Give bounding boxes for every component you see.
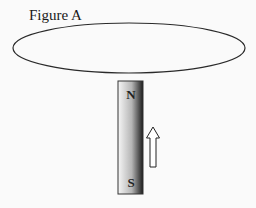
hollow-arrow-up-icon [147,127,160,167]
south-pole-label: S [118,176,144,189]
north-pole-label: N [118,88,144,101]
wire-loop [13,23,245,73]
diagram-canvas: Figure A N S [0,0,256,208]
